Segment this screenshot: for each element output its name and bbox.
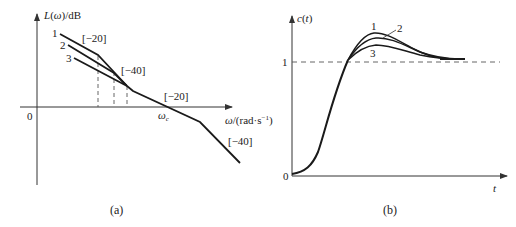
slope-label-minus20-b: [−20]: [164, 90, 189, 102]
panel-a-bode-plot: L(ω)/dB ω/(rad·s−1) 0 ωc 1 2 3 [−20] [−4…: [20, 9, 273, 217]
figure: L(ω)/dB ω/(rad·s−1) 0 ωc 1 2 3 [−20] [−4…: [0, 0, 516, 227]
curve-1-label: 1: [52, 27, 58, 39]
curve-3: [74, 58, 127, 86]
y-axis-label: c(t): [297, 12, 313, 25]
slope-label-minus40-a: [−40]: [121, 64, 146, 76]
slope-label-minus20-a: [−20]: [82, 32, 107, 44]
curve-2: [68, 45, 127, 86]
panel-b-step-response: c(t) t 0 1 1 2 3 (b): [282, 12, 507, 217]
common-rise: [292, 60, 348, 174]
origin-label: 0: [27, 110, 33, 122]
steady-state-label: 1: [282, 56, 288, 68]
x-axis-label: ω/(rad·s−1): [225, 114, 273, 127]
x-axis-label: t: [493, 182, 497, 194]
step-curve-2-label: 2: [397, 22, 403, 34]
step-curve-3-label: 3: [370, 47, 376, 59]
panel-b-caption: (b): [383, 203, 397, 217]
crossover-frequency-label: ωc: [158, 109, 170, 123]
y-axis-label: L(ω)/dB: [43, 9, 81, 22]
slope-label-minus40-b: [−40]: [228, 135, 253, 147]
step-curve-1-label: 1: [371, 20, 377, 32]
origin-label: 0: [283, 170, 289, 182]
curve-3-label: 3: [66, 52, 72, 64]
curve-2-label: 2: [60, 39, 66, 51]
step-curve-2: [348, 38, 465, 60]
panel-a-caption: (a): [110, 203, 123, 217]
